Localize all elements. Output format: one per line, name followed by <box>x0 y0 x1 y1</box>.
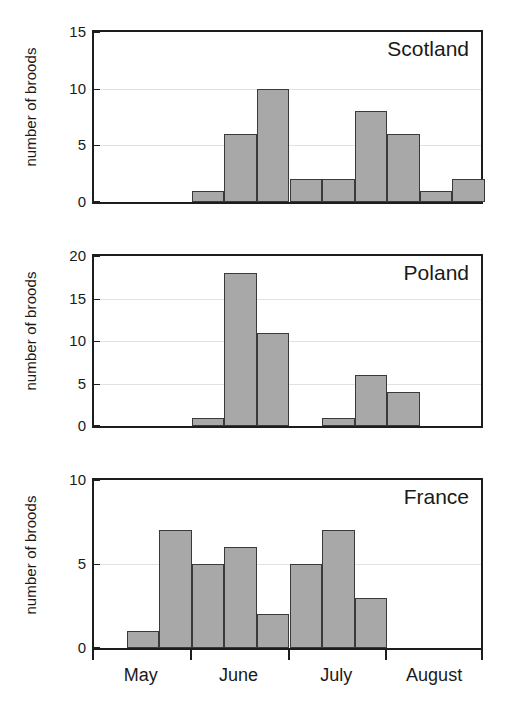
x-tick-mark <box>481 650 483 660</box>
plot-area-scotland: Scotland 051015 <box>92 30 483 204</box>
panel-poland: number of broods Poland 05101520 <box>0 238 516 450</box>
y-axis-label-france: number of broods <box>22 460 40 650</box>
bar <box>192 564 225 648</box>
bar <box>290 564 323 648</box>
y-tick-label: 0 <box>52 194 86 209</box>
panel-annotation-france: France <box>404 486 469 508</box>
x-tick-mark <box>92 650 94 660</box>
x-tick-mark <box>288 650 290 660</box>
bar <box>290 179 323 202</box>
bar <box>224 273 257 426</box>
y-tick-label: 15 <box>52 291 86 306</box>
panel-france: number of broods France 0510 MayJuneJuly… <box>0 462 516 710</box>
x-tick-label: May <box>92 664 190 686</box>
bar <box>224 547 257 648</box>
y-tick-label: 5 <box>52 556 86 571</box>
y-tick-mark <box>94 32 100 33</box>
y-tick-mark <box>94 647 100 648</box>
y-tick-mark <box>94 201 100 202</box>
y-tick-mark <box>94 256 100 257</box>
y-tick-label: 10 <box>52 472 86 487</box>
plot-area-france: France 0510 <box>92 478 483 650</box>
y-tick-mark <box>94 564 100 565</box>
y-tick-mark <box>94 145 100 146</box>
bar <box>224 134 257 202</box>
plot-area-poland: Poland 05101520 <box>92 254 483 428</box>
brood-phenology-figure: number of broods Scotland 051015 number … <box>0 0 516 724</box>
y-tick-label: 10 <box>52 333 86 348</box>
bar <box>192 191 225 202</box>
y-tick-label: 0 <box>52 418 86 433</box>
x-tick-label: August <box>385 664 483 686</box>
y-tick-label: 5 <box>52 376 86 391</box>
bar <box>420 191 453 202</box>
x-tick-mark <box>190 650 192 660</box>
bar <box>355 598 388 648</box>
bar <box>257 89 290 202</box>
y-tick-label: 5 <box>52 137 86 152</box>
bar <box>452 179 485 202</box>
y-tick-mark <box>94 480 100 481</box>
y-tick-label: 0 <box>52 640 86 655</box>
panel-scotland: number of broods Scotland 051015 <box>0 14 516 226</box>
x-axis-labels: MayJuneJulyAugust <box>92 664 483 686</box>
gridline <box>94 564 481 565</box>
y-tick-label: 10 <box>52 81 86 96</box>
y-tick-label: 15 <box>52 24 86 39</box>
y-tick-mark <box>94 341 100 342</box>
panel-annotation-poland: Poland <box>404 262 469 284</box>
y-tick-mark <box>94 425 100 426</box>
bar <box>322 530 355 648</box>
bar <box>387 134 420 202</box>
bar <box>355 375 388 426</box>
bar <box>322 418 355 427</box>
bar <box>257 614 290 648</box>
bar <box>387 392 420 426</box>
bar <box>192 418 225 427</box>
x-tick-label: July <box>288 664 386 686</box>
bar <box>355 111 388 202</box>
panel-annotation-scotland: Scotland <box>387 38 469 60</box>
bar <box>257 333 290 427</box>
gridline <box>94 299 481 300</box>
y-tick-mark <box>94 89 100 90</box>
y-tick-mark <box>94 384 100 385</box>
y-axis-label-scotland: number of broods <box>22 12 40 202</box>
x-tick-label: June <box>190 664 288 686</box>
bar <box>322 179 355 202</box>
x-axis-ticks <box>92 650 483 660</box>
y-axis-label-poland: number of broods <box>22 236 40 426</box>
y-tick-mark <box>94 299 100 300</box>
y-tick-label: 20 <box>52 248 86 263</box>
bar <box>159 530 192 648</box>
bar <box>127 631 160 648</box>
x-tick-mark <box>385 650 387 660</box>
